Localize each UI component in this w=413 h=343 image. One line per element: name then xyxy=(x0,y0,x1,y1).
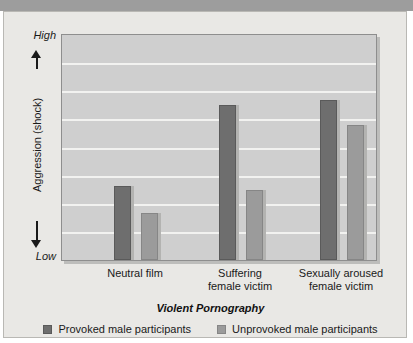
y-axis-title: Aggression (shock) xyxy=(29,69,45,221)
legend-label: Unprovoked male participants xyxy=(232,323,378,335)
legend-swatch-provoked xyxy=(43,325,52,334)
bar xyxy=(141,213,158,260)
plot-area xyxy=(61,34,377,261)
y-axis-high-label: High xyxy=(12,29,56,41)
gridline xyxy=(62,91,376,93)
legend-item: Unprovoked male participants xyxy=(217,323,378,335)
figure-card: High Low Aggression (shock) Neutral film… xyxy=(3,11,407,338)
x-axis-category-label: Neutral film xyxy=(75,267,195,280)
bar xyxy=(347,125,364,260)
gridline xyxy=(62,63,376,65)
bar xyxy=(114,186,131,260)
top-strip xyxy=(0,0,413,11)
bar xyxy=(320,100,337,260)
chart-figure: High Low Aggression (shock) Neutral film… xyxy=(0,0,413,343)
legend-swatch-unprovoked xyxy=(217,325,226,334)
legend-item: Provoked male participants xyxy=(43,323,191,335)
x-axis-category-label: Sexually arousedfemale victim xyxy=(281,267,401,293)
chart-legend: Provoked male participantsUnprovoked mal… xyxy=(4,323,413,335)
x-axis-category-line: Neutral film xyxy=(75,267,195,280)
arrow-down-icon xyxy=(31,240,41,248)
legend-label: Provoked male participants xyxy=(58,323,191,335)
y-axis-low-label: Low xyxy=(12,250,56,262)
x-axis-category-line: female victim xyxy=(281,280,401,293)
bar xyxy=(219,105,236,260)
bar xyxy=(246,190,263,260)
x-axis-title: Violent Pornography xyxy=(4,302,413,314)
y-axis-arrow-group: Aggression (shock) xyxy=(27,50,47,248)
x-axis-category-line: Sexually aroused xyxy=(281,267,401,280)
